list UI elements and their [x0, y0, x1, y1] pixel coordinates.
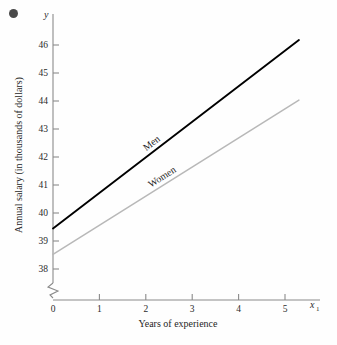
y-tick-label: 40 [39, 208, 49, 218]
y-tick-label: 46 [39, 40, 49, 50]
y-tick-label: 41 [39, 180, 49, 190]
x-axis-ticks: 012345 [51, 294, 288, 314]
data-series-group [53, 40, 299, 254]
y-tick-label: 45 [39, 68, 49, 78]
x-tick-label: 4 [236, 304, 241, 314]
x-tick-label: 0 [51, 304, 56, 314]
y-axis-break-icon [48, 283, 58, 298]
x-tick-label: 3 [190, 304, 195, 314]
series-line-men [53, 40, 299, 228]
series-line-women [53, 100, 299, 254]
y-axis-ticks: 383940414243444546 [39, 40, 60, 274]
salary-vs-experience-line-chart: 383940414243444546 012345 MenWomen y x 1… [0, 0, 337, 345]
series-label-men: Men [141, 133, 162, 153]
x-tick-label: 5 [283, 304, 288, 314]
x-axis-variable-label: x [309, 299, 315, 310]
y-tick-label: 43 [39, 124, 49, 134]
y-tick-label: 38 [39, 264, 49, 274]
x-tick-label: 2 [143, 304, 148, 314]
x-axis-variable-subscript: 1 [316, 305, 320, 313]
series-label-group: MenWomen [141, 133, 178, 190]
y-axis-title: Annual salary (in thousands of dollars) [13, 77, 25, 233]
x-axis-title: Years of experience [139, 318, 219, 329]
x-tick-label: 1 [97, 304, 102, 314]
y-tick-label: 44 [39, 96, 49, 106]
y-tick-label: 39 [39, 236, 49, 246]
chart-figure: 383940414243444546 012345 MenWomen y x 1… [0, 0, 337, 345]
y-axis-variable-label: y [43, 9, 49, 20]
y-tick-label: 42 [39, 152, 49, 162]
